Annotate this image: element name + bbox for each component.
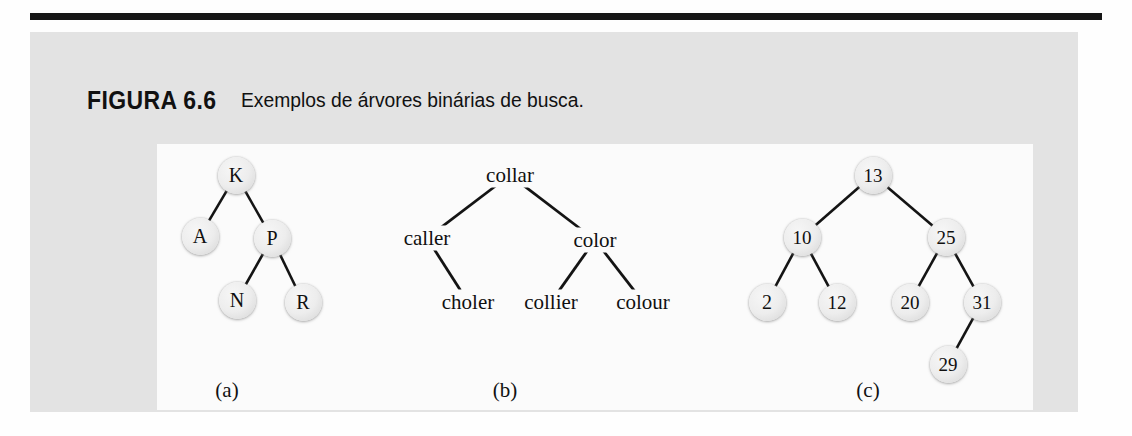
tree-edge [280, 254, 296, 287]
tree-node-29: 29 [930, 346, 967, 383]
top-rule [30, 13, 1102, 20]
tree-edges-layer [157, 144, 1033, 410]
tree-node-color: color [571, 228, 618, 253]
tree-node-caller: caller [402, 226, 453, 251]
tree-edge [918, 252, 937, 286]
tree-node-collar: collar [484, 163, 536, 188]
diagram-area: KAPNRcollarcallercolorcholercolliercolou… [157, 144, 1033, 410]
figure-page: FIGURA 6.6Exemplos de árvores binárias d… [0, 0, 1132, 436]
figure-title-text: Exemplos de árvores binárias de busca. [241, 88, 584, 112]
tree-node-colour: colour [614, 290, 672, 315]
tree-node-P: P [254, 220, 291, 257]
figure-panel: FIGURA 6.6Exemplos de árvores binárias d… [30, 32, 1078, 412]
tree-node-10: 10 [784, 219, 821, 256]
tree-node-12: 12 [819, 284, 856, 321]
tree-edge [559, 250, 588, 291]
tree-node-2: 2 [749, 284, 786, 321]
tree-node-R: R [285, 284, 322, 321]
tree-node-N: N [219, 282, 256, 319]
tree-edge [245, 190, 264, 223]
tree-edge [956, 317, 973, 348]
tree-edge [209, 190, 227, 221]
tree-node-K: K [218, 157, 255, 194]
tree-edge [520, 182, 584, 231]
subcaption-a: (a) [215, 378, 238, 403]
subcaption-c: (c) [856, 378, 879, 403]
tree-node-choler: choler [440, 290, 496, 315]
tree-node-collier: collier [522, 290, 580, 315]
figure-caption: FIGURA 6.6Exemplos de árvores binárias d… [87, 86, 605, 115]
tree-edge [886, 186, 932, 225]
tree-node-31: 31 [964, 284, 1001, 321]
tree-edge [438, 182, 500, 229]
tree-edge [775, 252, 793, 286]
tree-edge [954, 252, 973, 286]
subcaption-b: (b) [493, 378, 518, 403]
figure-number-label: FIGURA 6.6 [87, 86, 216, 115]
tree-edge [246, 253, 264, 285]
tree-node-20: 20 [892, 284, 929, 321]
tree-node-A: A [182, 218, 219, 255]
tree-node-25: 25 [928, 219, 965, 256]
tree-edge [433, 248, 460, 290]
tree-edge [602, 249, 634, 290]
tree-node-13: 13 [855, 157, 892, 194]
tree-edge [810, 252, 828, 286]
tree-edge [815, 187, 860, 226]
